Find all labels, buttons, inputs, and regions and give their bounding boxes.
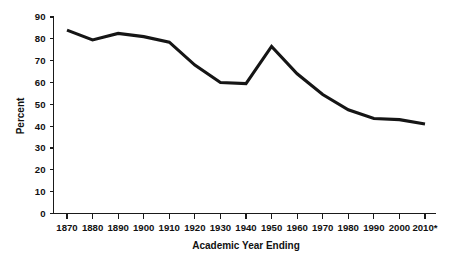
x-tick-label: 2000	[389, 222, 410, 233]
y-tick-label: 90	[35, 11, 46, 22]
x-tick-label: 1960	[286, 222, 307, 233]
y-tick-label: 50	[35, 99, 46, 110]
chart-canvas: 0102030405060708090 18701880189019001910…	[0, 0, 457, 259]
x-tick-label: 1900	[133, 222, 154, 233]
y-axis-title: Percent	[15, 97, 26, 134]
x-tick-label: 1880	[82, 222, 103, 233]
x-tick-label: 1990	[363, 222, 384, 233]
x-tick-label: 1940	[235, 222, 256, 233]
y-tick-label: 60	[35, 77, 46, 88]
x-axis-tick-labels: 1870188018901900191019201930194019501960…	[56, 222, 437, 233]
x-tick-label: 2010*	[412, 222, 437, 233]
y-tick-label: 70	[35, 55, 46, 66]
x-tick-label: 1890	[107, 222, 128, 233]
y-tick-label: 10	[35, 186, 46, 197]
x-axis-ticks	[67, 214, 425, 219]
x-tick-label: 1870	[56, 222, 77, 233]
x-axis-title: Academic Year Ending	[192, 240, 300, 251]
y-axis-ticks	[50, 17, 54, 214]
y-tick-label: 0	[40, 208, 45, 219]
y-axis-tick-labels: 0102030405060708090	[35, 11, 46, 219]
data-series-line	[67, 30, 425, 124]
x-tick-label: 1910	[159, 222, 180, 233]
x-tick-label: 1970	[312, 222, 333, 233]
line-chart: 0102030405060708090 18701880189019001910…	[0, 0, 457, 259]
x-tick-label: 1930	[210, 222, 231, 233]
x-tick-label: 1950	[261, 222, 282, 233]
y-tick-label: 80	[35, 33, 46, 44]
y-tick-label: 40	[35, 121, 46, 132]
y-tick-label: 20	[35, 164, 46, 175]
x-tick-label: 1980	[338, 222, 359, 233]
x-tick-label: 1920	[184, 222, 205, 233]
y-tick-label: 30	[35, 142, 46, 153]
